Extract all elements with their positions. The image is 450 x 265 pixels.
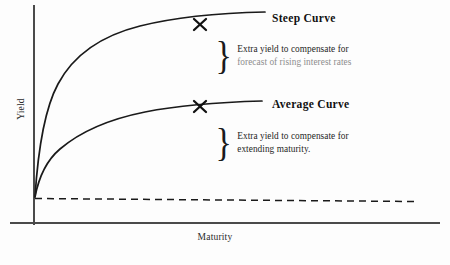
- average-annotation-text: Extra yield to compensate for extending …: [237, 131, 348, 155]
- average-curve-x-marker: [194, 101, 206, 112]
- x-axis-title: Maturity: [165, 232, 265, 242]
- average-annotation-line-2: extending maturity.: [237, 144, 348, 155]
- average-curve-label: Average Curve: [272, 98, 349, 110]
- brace-icon: }: [215, 127, 231, 159]
- steep-curve-annotation: } Extra yield to compensate for forecast…: [214, 40, 351, 72]
- y-axis-title: Yield: [16, 79, 26, 139]
- baseline-dashed-line: [35, 199, 415, 202]
- average-annotation-line-1: Extra yield to compensate for: [237, 131, 348, 142]
- brace-icon: }: [215, 40, 231, 72]
- average-curve-annotation: } Extra yield to compensate for extendin…: [214, 127, 349, 159]
- steep-annotation-text: Extra yield to compensate for forecast o…: [237, 44, 351, 68]
- steep-curve-label: Steep Curve: [272, 12, 336, 24]
- steep-curve-x-marker: [194, 19, 206, 30]
- steep-annotation-line-2: forecast of rising interest rates: [237, 57, 351, 68]
- yield-curve-figure: Yield Maturity Steep Curve Average Curve…: [0, 0, 450, 265]
- steep-annotation-line-1: Extra yield to compensate for: [237, 44, 351, 55]
